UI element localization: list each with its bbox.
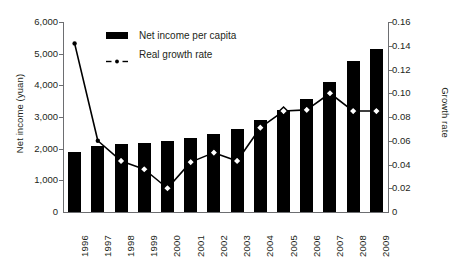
y-axis-right-tick-label: 0.08 — [392, 112, 434, 122]
y-axis-left-tick-label: 5,000 — [16, 49, 58, 59]
x-axis-tick-label: 1997 — [102, 235, 113, 257]
legend-item-growth-rate: Real growth rate — [106, 45, 236, 64]
bar-swatch-icon — [106, 32, 128, 39]
growth-rate-line-path — [75, 43, 377, 188]
y-axis-right-line — [388, 22, 389, 213]
y-axis-right-tickmark — [389, 117, 393, 118]
chart-figure: Net income (yuan) Growth rate 01,0002,00… — [0, 0, 454, 263]
x-axis-tick-label: 2005 — [288, 235, 299, 257]
y-axis-left-tick-label: 2,000 — [16, 144, 58, 154]
y-axis-right-tick-label: 0.10 — [392, 88, 434, 98]
y-axis-right-tick-label: 0.02 — [392, 183, 434, 193]
data-point-marker-dot — [72, 41, 76, 45]
y-axis-right-tick-label: 0.16 — [392, 17, 434, 27]
y-axis-right-tick-label: 0.12 — [392, 65, 434, 75]
data-point-marker-diamond — [372, 107, 380, 115]
y-axis-left-tick-label: 1,000 — [16, 175, 58, 185]
x-axis-tick-label: 1999 — [148, 235, 159, 257]
y-axis-right-tick-label: 0 — [392, 207, 434, 217]
y-axis-right-tick-label: 0.06 — [392, 136, 434, 146]
data-point-marker-diamond — [210, 149, 218, 157]
y-axis-right-tickmark — [389, 141, 393, 142]
y-axis-left-tick-label: 0 — [16, 207, 58, 217]
x-axis-tick-label: 2008 — [357, 235, 368, 257]
chart-legend: Net income per capita Real growth rate — [106, 26, 236, 64]
y-axis-right-tick-label: 0.14 — [392, 41, 434, 51]
y-axis-right-tickmark — [389, 165, 393, 166]
y-axis-left-tick-label: 6,000 — [16, 17, 58, 27]
legend-item-net-income: Net income per capita — [106, 26, 236, 45]
y-axis-left-tick-label: 3,000 — [16, 112, 58, 122]
y-axis-left-tick-label: 4,000 — [16, 80, 58, 90]
x-axis-tick-label: 1996 — [79, 235, 90, 257]
x-axis-labels: 1996199719981999200020012002200320042005… — [63, 213, 388, 263]
y-axis-right-tickmark — [389, 188, 393, 189]
x-axis-tick-label: 2009 — [380, 235, 391, 257]
x-axis-tick-label: 1998 — [125, 235, 136, 257]
y-axis-right-tickmark — [389, 22, 393, 23]
x-axis-tick-label: 2000 — [171, 235, 182, 257]
y-axis-right-tickmark — [389, 93, 393, 94]
y-axis-right-title: Growth rate — [440, 58, 451, 168]
legend-label-net-income: Net income per capita — [139, 30, 236, 41]
legend-label-growth-rate: Real growth rate — [139, 49, 212, 60]
x-axis-tick-label: 2001 — [195, 235, 206, 257]
data-point-marker-dot — [96, 139, 100, 143]
line-dot-swatch-icon — [106, 51, 128, 58]
x-axis-tick-label: 2004 — [264, 235, 275, 257]
y-axis-right-tickmark — [389, 46, 393, 47]
x-axis-tick-label: 2006 — [311, 235, 322, 257]
y-axis-right-tickmark — [389, 70, 393, 71]
x-axis-tick-label: 2003 — [241, 235, 252, 257]
y-axis-right-tick-label: 0.04 — [392, 160, 434, 170]
x-axis-tick-label: 2007 — [334, 235, 345, 257]
x-axis-tick-label: 2002 — [218, 235, 229, 257]
